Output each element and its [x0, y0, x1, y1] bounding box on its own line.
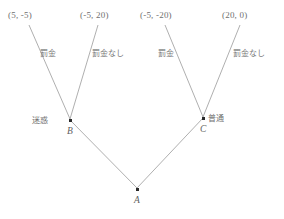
- edge-a-to-c: [137, 118, 203, 188]
- payoff-label-3: (-5, -20): [140, 10, 172, 20]
- edge-label-no-fine-right: 罰金なし: [233, 47, 265, 58]
- edge-c-to-payoff3: [165, 25, 203, 117]
- payoff-label-4: (20, 0): [222, 10, 247, 20]
- edge-label-no-fine-left: 罰金なし: [92, 47, 124, 58]
- edge-c-to-payoff4: [203, 25, 240, 117]
- edge-b-to-payoff1: [29, 25, 70, 119]
- edge-label-fine-right: 罰金: [158, 47, 174, 58]
- node-dot-c: [202, 117, 205, 120]
- payoff-label-2: (-5, 20): [80, 10, 109, 20]
- node-dot-b: [69, 119, 72, 122]
- game-tree-canvas: [0, 0, 284, 219]
- node-name-c: C: [200, 124, 206, 134]
- node-dot-a: [136, 188, 139, 191]
- node-type-label-c: 普通: [208, 112, 224, 123]
- node-type-label-b: 迷惑: [32, 114, 48, 125]
- payoff-label-1: (5, -5): [8, 10, 32, 20]
- node-name-b: B: [67, 126, 73, 136]
- node-name-a: A: [134, 195, 140, 205]
- edge-label-fine-left: 罰金: [40, 47, 56, 58]
- edge-a-to-b: [70, 120, 137, 188]
- edge-b-to-payoff2: [70, 25, 98, 119]
